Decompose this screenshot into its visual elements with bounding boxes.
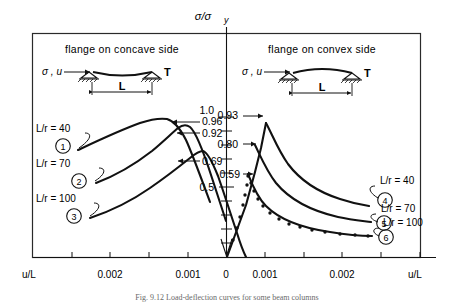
right-beam-end-label: T: [364, 67, 371, 79]
y-axis-title: σ/σ: [195, 10, 212, 22]
right-beam-stress-label: σ , u: [242, 66, 262, 77]
svg-text:6: 6: [383, 233, 388, 243]
svg-text:1: 1: [60, 142, 65, 152]
curve-2-leader: [95, 168, 104, 181]
curve-1-marker: 1: [56, 139, 71, 154]
curve-6-leader: [374, 228, 379, 236]
curve-6-marker: 6: [379, 230, 394, 245]
curve-2-label: L/r = 70: [36, 158, 71, 169]
right-beam-diagram: σ , u T L: [242, 66, 371, 96]
figure-root: σ/σ y 1.0 0.5: [0, 0, 454, 302]
svg-text:3: 3: [71, 212, 76, 222]
beam-column-load-deflection-chart: σ/σ y 1.0 0.5: [0, 0, 454, 302]
x-axis-label-left: u/L: [22, 269, 36, 280]
x-tick-label-right-0-001: 0.001: [252, 269, 277, 280]
curve-3-leader: [90, 203, 99, 216]
annotation-0-93: 0.93: [218, 109, 239, 121]
left-beam-end-label: T: [164, 66, 171, 78]
curve-2-marker: 2: [72, 174, 87, 189]
left-beam-diagram: σ , u T L: [42, 66, 171, 95]
annotation-0-80: 0.80: [218, 138, 239, 150]
curve-6-path: [248, 174, 372, 236]
curve-3-marker: 3: [67, 209, 82, 224]
curve-1-path: [78, 119, 210, 202]
x-axis-label-right: u/L: [408, 269, 422, 280]
figure-caption: Fig. 9.12 Load-deflection curves for som…: [135, 293, 318, 302]
svg-text:2: 2: [76, 177, 81, 187]
curve-4-path: [266, 123, 369, 206]
curve-2-path: [96, 125, 226, 221]
curve-4-leader: [370, 186, 378, 198]
x-tick-label-origin: 0: [223, 269, 229, 280]
y-axis-title-subscript: y: [223, 15, 229, 25]
curve-1-label: L/r = 40: [36, 123, 71, 134]
left-beam-stress-label: σ , u: [42, 66, 62, 77]
curve-5-label: L/r = 70: [381, 203, 416, 214]
x-tick-label-right-0-002: 0.002: [329, 269, 354, 280]
left-panel-title: flange on concave side: [65, 43, 179, 55]
right-panel-title: flange on convex side: [268, 43, 376, 55]
curve-4-label: L/r = 40: [380, 175, 415, 186]
curve-3-label: L/r = 100: [36, 193, 76, 204]
curve-6-label: L/r = 100: [383, 217, 423, 228]
annotation-0-69: 0.69: [202, 155, 223, 167]
curve-3-path: [90, 151, 246, 257]
x-tick-label-left-0-002: 0.002: [97, 269, 122, 280]
right-beam-span-label: L: [319, 81, 326, 93]
annotation-0-59: 0.59: [220, 168, 241, 180]
left-beam-span-label: L: [119, 80, 126, 92]
x-tick-label-left-0-001: 0.001: [175, 269, 200, 280]
